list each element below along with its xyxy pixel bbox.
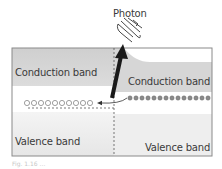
right-valence-band-label: Valence band xyxy=(145,142,210,153)
recombination-arrowhead xyxy=(97,101,102,105)
electrons xyxy=(128,96,210,100)
figure-caption: Fig. 1.16 ... xyxy=(12,160,45,167)
right-conduction-band-label: Conduction band xyxy=(128,76,210,87)
band-diagram: Photon Conduction band Conduction band V… xyxy=(0,0,222,169)
left-valence-band-label: Valence band xyxy=(15,136,80,147)
left-valence-band xyxy=(12,112,114,156)
holes xyxy=(24,100,92,105)
recombination-arrow xyxy=(100,98,127,103)
photon-icon xyxy=(117,18,142,42)
photon-label: Photon xyxy=(113,8,147,19)
left-conduction-band-label: Conduction band xyxy=(15,67,97,78)
